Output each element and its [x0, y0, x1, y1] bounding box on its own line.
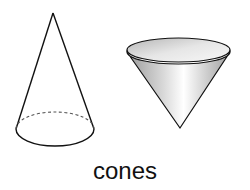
wireframe-cone — [16, 13, 94, 146]
caption: cones — [0, 157, 250, 185]
shaded-cone — [127, 38, 230, 128]
cone-top — [127, 38, 230, 62]
cone-body — [127, 52, 230, 128]
cone-left-edge — [16, 13, 53, 129]
cone-base-hidden — [16, 112, 94, 129]
cone-base-front — [16, 129, 94, 146]
